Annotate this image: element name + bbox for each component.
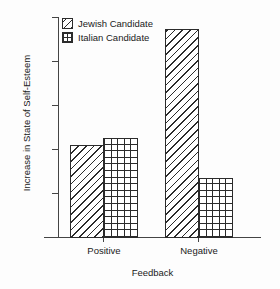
x-category-label-positive: Positive (64, 246, 144, 256)
legend-label-jewish-candidate: Jewish Candidate (78, 19, 153, 29)
bar-jewish-positive (70, 145, 104, 238)
bar-chart: Jewish Candidate Italian Candidate 5 4 3… (0, 0, 280, 289)
legend-label-italian-candidate: Italian Candidate (78, 33, 149, 43)
bar-italian-positive (103, 138, 138, 238)
diagonal-hatch-swatch-icon (62, 18, 73, 29)
y-tick-3 (52, 105, 58, 106)
y-tick-2 (52, 149, 58, 150)
legend-item-jewish-candidate: Jewish Candidate (62, 18, 153, 29)
cross-hatch-swatch-icon (62, 32, 73, 43)
y-axis-title: Increase in State of Self-Esteem (22, 23, 32, 223)
x-category-label-negative: Negative (159, 246, 239, 256)
bar-jewish-negative (165, 29, 199, 238)
bar-italian-negative (198, 178, 233, 238)
legend-item-italian-candidate: Italian Candidate (62, 32, 153, 43)
y-tick-4 (52, 61, 58, 62)
y-tick-0 (52, 237, 58, 238)
y-tick-1 (52, 193, 58, 194)
x-axis-title: Feedback (44, 268, 261, 278)
y-tick-5 (52, 17, 58, 18)
chart-legend: Jewish Candidate Italian Candidate (62, 18, 153, 43)
y-axis-line (58, 17, 59, 238)
